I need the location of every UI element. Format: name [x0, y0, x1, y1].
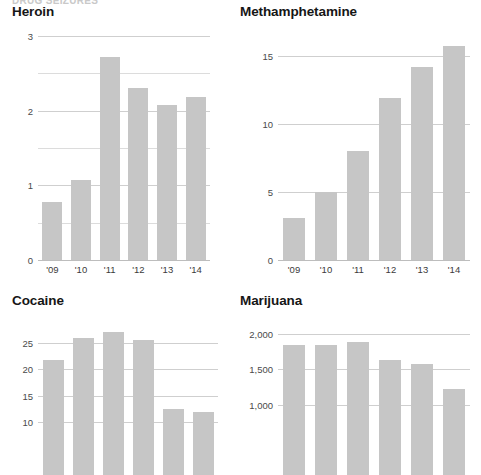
bar-cocaine-13[interactable] — [163, 409, 184, 475]
bar-cocaine-10[interactable] — [73, 338, 94, 475]
x-axis-tick-label: '09 — [278, 264, 310, 275]
gridline-major — [278, 334, 470, 335]
y-axis-tick-label: 5 — [268, 187, 273, 198]
bar-methamphetamine-09[interactable] — [283, 218, 305, 260]
gridline-major — [38, 422, 218, 423]
bar-marijuana-11[interactable] — [347, 342, 369, 475]
bar-methamphetamine-11[interactable] — [347, 151, 369, 260]
x-axis-tick-label: '10 — [310, 264, 342, 275]
bar-cocaine-11[interactable] — [103, 332, 124, 475]
gridline-major — [38, 111, 210, 112]
y-axis-tick-label: 10 — [262, 119, 273, 130]
y-axis-tick-label: 20 — [22, 364, 33, 375]
chart-panel-heroin: Heroin — [12, 4, 54, 19]
chart-title-cocaine: Cocaine — [12, 293, 64, 308]
chart-panel-cocaine: Cocaine — [12, 293, 64, 308]
x-axis-tick-label: '12 — [374, 264, 406, 275]
y-axis-tick-label: 10 — [22, 417, 33, 428]
x-axis-tick-label: '11 — [342, 264, 374, 275]
gridline-major — [38, 396, 218, 397]
axis-baseline — [38, 260, 210, 261]
bar-heroin-14[interactable] — [186, 97, 206, 260]
y-axis-tick-label: 1,500 — [249, 364, 273, 375]
bar-heroin-10[interactable] — [71, 180, 91, 260]
x-axis-tick-label: '13 — [406, 264, 438, 275]
gridline-major — [278, 192, 470, 193]
x-axis-tick-label: '14 — [181, 264, 210, 275]
gridline-major — [278, 369, 470, 370]
gridline-major — [278, 56, 470, 57]
x-axis-tick-label: '13 — [153, 264, 182, 275]
gridline-major — [278, 405, 470, 406]
x-axis-tick-label: '12 — [124, 264, 153, 275]
x-axis-tick-label: '09 — [38, 264, 67, 275]
bar-marijuana-12[interactable] — [379, 360, 401, 475]
chart-page: DRUG SEIZURES HeroinMethamphetamineCocai… — [0, 0, 481, 475]
gridline-minor — [38, 73, 210, 74]
gridline-major — [38, 185, 210, 186]
bar-marijuana-10[interactable] — [315, 345, 337, 475]
plot-area-methamphetamine: 051015 — [278, 36, 470, 260]
x-axis-tick-label: '14 — [438, 264, 470, 275]
x-axis-tick-label: '10 — [67, 264, 96, 275]
y-axis-tick-label: 1 — [28, 180, 33, 191]
gridline-major — [278, 124, 470, 125]
plot-area-cocaine: 10152025 — [38, 325, 218, 475]
bar-heroin-13[interactable] — [157, 105, 177, 260]
bar-heroin-11[interactable] — [100, 57, 120, 260]
bar-marijuana-13[interactable] — [411, 364, 433, 475]
gridline-major — [38, 36, 210, 37]
y-axis-tick-label: 25 — [22, 337, 33, 348]
bar-cocaine-09[interactable] — [43, 360, 64, 475]
chart-title-methamphetamine: Methamphetamine — [240, 4, 357, 19]
gridline-major — [38, 369, 218, 370]
chart-title-heroin: Heroin — [12, 4, 54, 19]
bar-methamphetamine-14[interactable] — [443, 46, 465, 260]
y-axis-tick-label: 3 — [28, 31, 33, 42]
bar-cocaine-12[interactable] — [133, 340, 154, 475]
y-axis-tick-label: 0 — [268, 255, 273, 266]
bar-methamphetamine-13[interactable] — [411, 67, 433, 260]
bar-methamphetamine-12[interactable] — [379, 98, 401, 260]
chart-panel-marijuana: Marijuana — [240, 293, 302, 308]
axis-baseline — [278, 260, 470, 261]
y-axis-tick-label: 15 — [262, 51, 273, 62]
y-axis-tick-label: 15 — [22, 390, 33, 401]
bar-marijuana-09[interactable] — [283, 345, 305, 475]
chart-title-marijuana: Marijuana — [240, 293, 302, 308]
chart-panel-methamphetamine: Methamphetamine — [240, 4, 357, 19]
gridline-major — [38, 343, 218, 344]
bar-marijuana-14[interactable] — [443, 389, 465, 475]
bar-cocaine-14[interactable] — [193, 412, 214, 475]
y-axis-tick-label: 2,000 — [249, 329, 273, 340]
y-axis-tick-label: 1,000 — [249, 399, 273, 410]
gridline-minor — [38, 148, 210, 149]
bar-methamphetamine-10[interactable] — [315, 192, 337, 260]
gridline-minor — [38, 223, 210, 224]
y-axis-tick-label: 2 — [28, 105, 33, 116]
plot-area-heroin: 0123 — [38, 36, 210, 260]
bar-heroin-12[interactable] — [128, 88, 148, 260]
x-axis-tick-label: '11 — [95, 264, 124, 275]
plot-area-marijuana: 1,0001,5002,000 — [278, 325, 470, 475]
y-axis-tick-label: 0 — [28, 255, 33, 266]
bar-heroin-09[interactable] — [42, 202, 62, 260]
